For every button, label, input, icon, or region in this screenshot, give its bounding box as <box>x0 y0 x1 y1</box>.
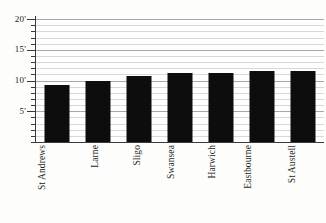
y-axis-tick-label: 5' <box>0 107 26 116</box>
bar-slot <box>118 16 159 142</box>
y-axis-tick-label: 15' <box>0 45 26 54</box>
x-label-slot: Eastbourne <box>242 145 283 223</box>
y-axis-labels: 20'15'10'5' <box>0 0 26 223</box>
bar-slot <box>36 16 77 142</box>
x-label-slot: Sligo <box>118 145 159 223</box>
x-label-slot: Swansea <box>159 145 200 223</box>
x-axis-tick-label: St Andrews <box>34 145 45 190</box>
bar <box>209 73 234 142</box>
x-label-slot: St Austell <box>283 145 324 223</box>
bar <box>85 81 110 142</box>
x-axis-tick-label: St Austell <box>284 145 295 183</box>
bar <box>167 73 192 142</box>
x-axis-tick-label: Harwich <box>204 145 215 178</box>
y-tick-major <box>27 111 36 112</box>
bar-series <box>36 16 324 142</box>
x-axis-tick-label: Sligo <box>129 145 140 166</box>
y-axis-tick-label: 10' <box>0 76 26 85</box>
bar-slot <box>159 16 200 142</box>
bar <box>250 71 275 142</box>
x-label-slot: Harwich <box>201 145 242 223</box>
x-label-slot: Larne <box>77 145 118 223</box>
bar-slot <box>242 16 283 142</box>
y-tick-minor <box>31 142 36 143</box>
y-tick-major <box>27 81 36 82</box>
x-axis-tick-label: Swansea <box>163 145 174 179</box>
x-axis-tick-label: Eastbourne <box>240 145 251 189</box>
x-axis-line <box>35 142 324 143</box>
x-axis-tick-label: Larne <box>86 145 97 168</box>
bar <box>291 71 316 142</box>
x-label-slot: St Andrews <box>36 145 77 223</box>
bar <box>126 76 151 142</box>
y-tick-major <box>27 19 36 20</box>
y-tick-major <box>27 50 36 51</box>
bar-chart-figure: 20'15'10'5' St AndrewsLarneSligoSwanseaH… <box>0 0 326 223</box>
bar <box>44 85 69 142</box>
x-axis-labels: St AndrewsLarneSligoSwanseaHarwichEastbo… <box>36 145 324 223</box>
bar-slot <box>283 16 324 142</box>
bar-slot <box>77 16 118 142</box>
y-axis-tick-label: 20' <box>0 15 26 24</box>
bar-slot <box>201 16 242 142</box>
